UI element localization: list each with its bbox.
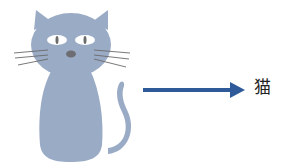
cat-to-word-diagram [0,0,289,167]
cat-word-label: 猫 [254,77,271,97]
arrow-icon [143,82,245,98]
cat-illustration-icon [31,10,131,162]
cat-nose [66,51,76,58]
